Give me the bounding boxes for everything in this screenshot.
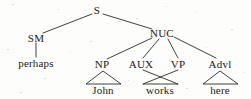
edge-nuc-to-advl <box>174 37 216 58</box>
advl-triangle <box>203 71 238 84</box>
edge-s-to-sm <box>43 14 92 33</box>
word-here: here <box>210 85 230 96</box>
node-advl: Advl <box>209 59 232 70</box>
node-nuc: NUC <box>150 28 174 39</box>
node-aux: AUX <box>129 59 153 70</box>
node-vp: VP <box>171 59 185 70</box>
np-triangle <box>86 71 121 84</box>
word-perhaps: perhaps <box>18 58 54 69</box>
edge-nuc-to-vp <box>168 39 178 58</box>
edge-s-to-nuc <box>103 14 152 29</box>
node-sm: SM <box>28 33 44 44</box>
word-john: John <box>92 85 114 96</box>
node-s: S <box>94 5 100 16</box>
node-np: NP <box>95 59 109 70</box>
edge-nuc-to-aux <box>143 39 159 58</box>
word-works: works <box>146 85 174 96</box>
syntax-tree-figure: S SM NUC NP AUX VP Advl perhaps John wor… <box>0 0 251 99</box>
